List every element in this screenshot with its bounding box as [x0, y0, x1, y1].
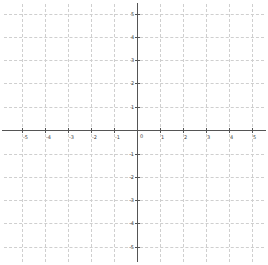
y-tick	[135, 107, 140, 108]
x-tick-label: -3	[69, 134, 74, 140]
x-tick	[183, 128, 184, 133]
y-tick-label: 5	[131, 11, 134, 17]
x-tick	[160, 128, 161, 133]
horizontal-gridline	[4, 223, 264, 224]
x-tick-label: 4	[230, 134, 233, 140]
coordinate-plane: 0 -5-4-3-2-11234554321-1-2-3-4-5	[0, 0, 268, 265]
x-tick-label: 2	[184, 134, 187, 140]
x-tick-label: -5	[23, 134, 28, 140]
y-tick	[135, 177, 140, 178]
x-tick	[252, 128, 253, 133]
y-tick	[135, 223, 140, 224]
x-tick	[206, 128, 207, 133]
y-tick-label: 3	[131, 57, 134, 63]
x-tick-label: 5	[253, 134, 256, 140]
y-tick-label: -2	[129, 174, 134, 180]
y-tick-label: 1	[131, 104, 134, 110]
y-tick-label: -1	[129, 151, 134, 157]
y-tick	[135, 83, 140, 84]
x-tick	[114, 128, 115, 133]
horizontal-gridline	[4, 154, 264, 155]
y-tick-label: -5	[129, 244, 134, 250]
x-tick	[229, 128, 230, 133]
y-tick	[135, 60, 140, 61]
x-tick-label: -1	[115, 134, 120, 140]
horizontal-gridline	[4, 200, 264, 201]
x-tick	[45, 128, 46, 133]
x-tick-label: -2	[92, 134, 97, 140]
y-tick-label: -4	[129, 220, 134, 226]
y-tick	[135, 200, 140, 201]
y-tick-label: 2	[131, 80, 134, 86]
y-tick-label: 4	[131, 34, 134, 40]
horizontal-gridline	[4, 177, 264, 178]
x-tick	[91, 128, 92, 133]
x-tick	[22, 128, 23, 133]
x-tick-label: -4	[46, 134, 51, 140]
x-axis	[2, 130, 266, 131]
origin-label: 0	[140, 133, 143, 139]
y-tick	[135, 14, 140, 15]
x-tick-label: 3	[207, 134, 210, 140]
y-tick	[135, 154, 140, 155]
y-tick	[135, 247, 140, 248]
y-tick	[135, 37, 140, 38]
horizontal-gridline	[4, 247, 264, 248]
x-tick-label: 1	[161, 134, 164, 140]
y-tick-label: -3	[129, 197, 134, 203]
x-tick	[68, 128, 69, 133]
